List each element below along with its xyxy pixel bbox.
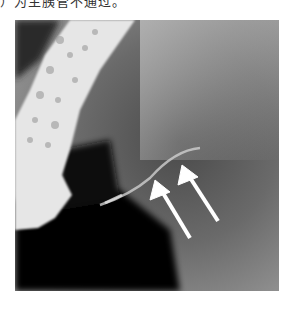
caption-text: ）为主胰管不通过。 [0,0,126,10]
xray-image [15,20,279,291]
